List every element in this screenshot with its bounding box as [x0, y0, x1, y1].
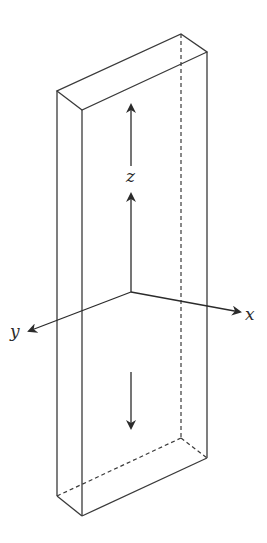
bar-top-face	[57, 34, 207, 110]
diagram-canvas: z x y	[0, 0, 267, 543]
x-axis-label: x	[245, 306, 255, 323]
y-axis-label: y	[10, 323, 20, 340]
bar-hidden-edges	[57, 34, 207, 496]
bar-bottom-left-edge	[57, 496, 82, 516]
y-axis-arrow	[29, 292, 131, 331]
x-axis-arrow	[131, 292, 240, 312]
bar-hidden-bottom-right-edge	[181, 438, 207, 458]
z-axis-label: z	[126, 168, 135, 185]
bar-solid-edges	[57, 34, 207, 516]
bar-diagram	[0, 0, 267, 543]
bar-hidden-bottom-back-edge	[57, 438, 181, 496]
bar-bottom-front-edge	[82, 458, 207, 516]
coordinate-axes	[29, 194, 240, 331]
